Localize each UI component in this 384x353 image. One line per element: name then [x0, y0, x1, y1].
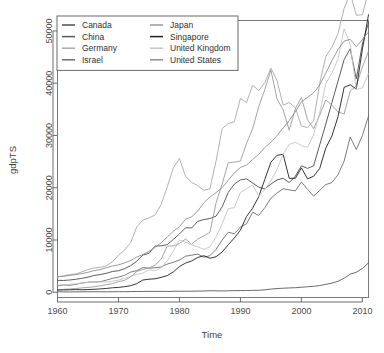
legend-label-singapore: Singapore: [170, 32, 209, 42]
x-tick-label: 2000: [291, 306, 311, 316]
y-tick-label: 30000: [44, 123, 54, 148]
legend-label-japan: Japan: [170, 20, 193, 30]
series-line-japan: [58, 51, 369, 289]
legend-label-china: China: [82, 32, 104, 42]
y-axis: 01000020000300004000050000 gdpTS: [7, 18, 57, 294]
legend-label-israel: Israel: [82, 55, 103, 65]
legend-label-united-kingdom: United Kingdom: [170, 43, 230, 53]
x-tick-label: 1990: [230, 306, 250, 316]
y-tick-label: 0: [44, 290, 54, 295]
chart-figure: 01000020000300004000050000 gdpTS 1960197…: [0, 0, 384, 353]
legend-label-united-states: United States: [170, 55, 221, 65]
x-tick-label: 1980: [169, 306, 189, 316]
x-tick-group: 196019701980199020002010: [47, 298, 372, 316]
y-tick-group: 01000020000300004000050000: [44, 18, 57, 294]
legend-label-canada: Canada: [82, 20, 112, 30]
y-tick-label: 50000: [44, 18, 54, 43]
y-axis-title: gdpTS: [7, 146, 18, 174]
x-tick-label: 1970: [108, 306, 128, 316]
legend-label-germany: Germany: [82, 43, 118, 53]
series-line-israel: [58, 116, 369, 286]
x-axis: 196019701980199020002010 Time: [47, 298, 372, 340]
gdp-time-series-chart: 01000020000300004000050000 gdpTS 1960197…: [0, 0, 384, 353]
chart-legend: CanadaChinaGermanyIsraelJapanSingaporeUn…: [57, 16, 238, 70]
y-tick-label: 20000: [44, 175, 54, 200]
x-tick-label: 2010: [352, 306, 372, 316]
y-tick-label: 40000: [44, 71, 54, 96]
x-tick-label: 1960: [47, 306, 67, 316]
x-axis-title: Time: [202, 329, 223, 340]
series-line-china: [58, 263, 369, 292]
y-tick-label: 10000: [44, 227, 54, 252]
